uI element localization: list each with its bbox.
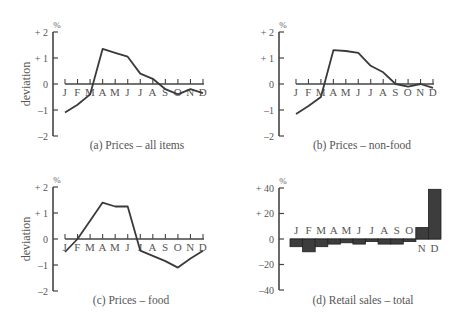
y-tick-label: –2 (37, 286, 48, 297)
y-tick-label: + 2 (261, 27, 274, 38)
bar (366, 239, 379, 242)
y-tick-label: 0 (43, 234, 48, 245)
x-tick-label: J (368, 86, 373, 98)
x-tick-label: A (98, 241, 106, 253)
x-tick-label: M (85, 241, 95, 253)
y-tick-label: 0 (269, 234, 274, 245)
y-tick-label: –20 (258, 259, 274, 270)
x-tick-label: S (394, 224, 401, 236)
bar (416, 228, 429, 240)
y-tick-label: –2 (37, 131, 48, 142)
bar (353, 239, 366, 244)
chart-panel-a: + 2+ 10–1–2%deviationJFMAMJJASOND(a) Pri… (19, 20, 207, 152)
y-tick-label: + 20 (256, 208, 274, 219)
bar (328, 239, 341, 244)
x-tick-label: O (174, 241, 182, 253)
x-tick-label: A (380, 224, 388, 236)
x-tick-label: M (341, 224, 351, 236)
x-tick-label: J (63, 86, 68, 98)
y-tick-label: –1 (37, 105, 48, 116)
chart-caption: (c) Prices – food (93, 294, 170, 307)
y-tick-label: –1 (263, 105, 274, 116)
data-line (65, 203, 203, 268)
x-tick-label: J (294, 86, 299, 98)
x-tick-label: F (74, 241, 81, 253)
y-axis-label: deviation (19, 217, 33, 262)
bar (303, 239, 316, 252)
y-unit-label: % (279, 20, 287, 30)
chart-caption: (a) Prices – all items (90, 139, 185, 152)
y-tick-label: 0 (269, 79, 274, 90)
x-tick-label: M (316, 224, 326, 236)
data-line (65, 49, 203, 113)
x-tick-label: J (138, 86, 143, 98)
x-tick-label: F (306, 224, 313, 236)
chart-figure: + 2+ 10–1–2%deviationJFMAMJJASOND(a) Pri… (0, 0, 461, 320)
chart-panel-c: + 2+ 10–1–2%deviationJFMAMJJASOND(c) Pri… (19, 175, 207, 307)
y-tick-label: + 40 (256, 183, 274, 194)
x-tick-label: A (98, 86, 106, 98)
x-tick-label: J (125, 241, 130, 253)
x-tick-label: S (392, 86, 399, 98)
bar (391, 239, 404, 244)
x-tick-label: A (329, 86, 337, 98)
x-tick-label: J (294, 224, 299, 236)
y-tick-label: –40 (258, 285, 274, 296)
x-tick-label: M (110, 241, 120, 253)
x-tick-label: A (330, 224, 338, 236)
y-unit-label: % (279, 176, 287, 186)
y-unit-label: % (53, 20, 61, 30)
x-tick-label: M (341, 86, 351, 98)
y-tick-label: –2 (263, 131, 274, 142)
x-tick-label: N (186, 241, 194, 253)
x-tick-label: D (430, 242, 438, 254)
y-tick-label: + 1 (35, 208, 48, 219)
x-tick-label: F (305, 86, 312, 98)
y-tick-label: + 2 (35, 182, 48, 193)
y-tick-label: –1 (37, 260, 48, 271)
x-tick-label: A (149, 241, 157, 253)
y-tick-label: + 1 (35, 53, 48, 64)
x-tick-label: S (162, 241, 169, 253)
x-tick-label: O (405, 224, 413, 236)
y-tick-label: + 1 (261, 53, 274, 64)
y-tick-label: 0 (43, 79, 48, 90)
x-tick-label: N (418, 242, 426, 254)
x-tick-label: J (357, 224, 362, 236)
x-tick-label: O (174, 86, 182, 98)
y-unit-label: % (53, 175, 61, 185)
bar (340, 239, 353, 243)
chart-panel-b: + 2+ 10–1–2%JFMAMJJASOND(b) Prices – non… (261, 20, 437, 152)
bar (378, 239, 391, 244)
x-tick-label: J (356, 86, 361, 98)
y-tick-label: + 2 (35, 27, 48, 38)
chart-caption: (d) Retail sales – total (313, 294, 414, 307)
x-tick-label: M (110, 86, 120, 98)
chart-panel-d: + 40+ 200–20–40%JFMAMJJASOND(d) Retail s… (256, 176, 441, 307)
x-tick-label: A (149, 86, 157, 98)
x-tick-label: J (125, 86, 130, 98)
x-tick-label: A (379, 86, 387, 98)
bar (315, 239, 328, 247)
x-tick-label: N (416, 86, 424, 98)
y-axis-label: deviation (19, 62, 33, 107)
bar (428, 189, 441, 239)
x-tick-label: F (74, 86, 81, 98)
x-tick-label: O (404, 86, 412, 98)
data-line (296, 50, 433, 114)
x-tick-label: N (186, 86, 194, 98)
bar (403, 239, 416, 242)
chart-caption: (b) Prices – non-food (313, 139, 411, 152)
bar (290, 239, 303, 247)
x-tick-label: J (369, 224, 374, 236)
